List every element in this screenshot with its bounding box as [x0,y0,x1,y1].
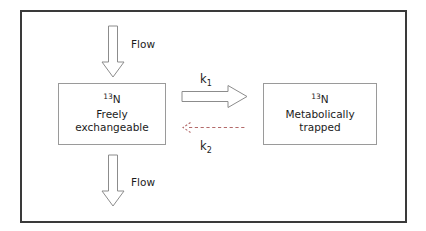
compartment-right-line1: Metabolically [285,108,354,122]
isotope-symbol-left: N [113,93,121,105]
rate-constant-label-k1: k1 [200,73,212,85]
flow-label-bottom: Flow [131,176,155,188]
isotope-symbol-right: N [321,93,329,105]
compartment-left-line2: exchangeable [75,121,148,135]
k1-symbol: k [200,72,207,86]
figure-root: 13N Freely exchangeable 13N Metabolicall… [0,0,426,231]
isotope-mass-right: 13 [311,92,321,101]
rate-constant-label-k2: k2 [200,140,212,152]
k2-symbol: k [200,139,207,153]
k2-subscript: 2 [207,146,212,155]
isotope-mass-left: 13 [103,92,113,101]
compartment-right-line2: trapped [299,121,340,135]
isotope-label-left: 13N [103,93,120,107]
k1-subscript: 1 [207,79,212,88]
isotope-label-right: 13N [311,93,328,107]
compartment-box-metabolically-trapped: 13N Metabolically trapped [263,83,377,145]
compartment-left-line1: Freely [96,108,127,122]
compartment-box-freely-exchangeable: 13N Freely exchangeable [58,83,166,145]
flow-label-top: Flow [131,38,155,50]
